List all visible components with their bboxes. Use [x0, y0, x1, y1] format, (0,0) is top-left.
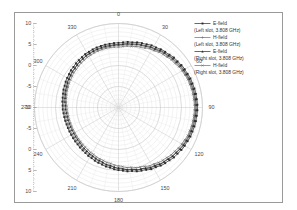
angular-tick-30: 30	[162, 24, 168, 30]
angular-tick-210: 210	[68, 185, 77, 191]
filled-square-marker	[193, 20, 212, 27]
radial-tick-label: 10	[25, 188, 31, 194]
cross-marker	[193, 62, 212, 69]
data-series-layer	[61, 41, 198, 172]
chart-legend: E-field(Left slot, 3.808 GHz)H-field(Lef…	[193, 20, 281, 76]
legend-sublabel: (Left slot, 3.808 GHz)	[193, 41, 281, 48]
radial-tick-label: 10	[25, 20, 31, 26]
polar-grid	[35, 24, 203, 192]
radial-tick-label: -10	[24, 104, 32, 110]
angular-tick-330: 330	[68, 24, 77, 30]
legend-sublabel: (Left slot, 3.808 GHz)	[193, 27, 281, 34]
angular-tick-150: 150	[161, 185, 170, 191]
angular-tick-120: 120	[195, 151, 204, 157]
angular-tick-90: 90	[209, 104, 215, 110]
radial-tick-label: 0	[28, 146, 31, 152]
radial-tick-label: 5	[28, 167, 31, 173]
angular-tick-240: 240	[33, 151, 42, 157]
angular-tick-180: 180	[114, 197, 123, 203]
legend-sublabel: (Right slot, 3.808 GHz)	[193, 69, 281, 76]
radial-tick-label: 0	[28, 62, 31, 68]
plus-marker	[193, 34, 212, 41]
radial-axis	[34, 24, 37, 192]
filled-triangle-marker	[193, 48, 212, 55]
radial-tick-label: 5	[28, 41, 31, 47]
polar-radiation-pattern-figure: 0306090120150180210240270300330 1050-5-1…	[0, 0, 297, 210]
radial-tick-label: -5	[27, 83, 32, 89]
angular-tick-300: 300	[33, 58, 42, 64]
radial-tick-labels: 1050-5-10-50510	[24, 20, 32, 194]
legend-sublabel: (Right slot, 3.808 GHz)	[193, 55, 281, 62]
radial-tick-label: -5	[27, 125, 32, 131]
angular-tick-0: 0	[117, 11, 120, 17]
